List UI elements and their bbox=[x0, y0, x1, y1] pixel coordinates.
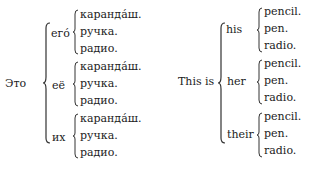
lead-text: This is bbox=[178, 75, 214, 88]
pronoun: их bbox=[52, 131, 66, 144]
word: каранда́ш. bbox=[80, 8, 141, 21]
word: радио. bbox=[80, 146, 118, 159]
word: radio. bbox=[264, 144, 296, 157]
pronoun: their bbox=[227, 128, 254, 141]
pronoun: his bbox=[226, 23, 242, 36]
small-brace-icon bbox=[73, 9, 79, 55]
word: pencil. bbox=[264, 110, 301, 123]
word: pencil. bbox=[264, 5, 301, 18]
word: radio. bbox=[264, 39, 296, 52]
word: radio. bbox=[264, 91, 296, 104]
pronoun: her bbox=[227, 75, 246, 88]
word: радио. bbox=[80, 94, 118, 107]
word: радио. bbox=[80, 42, 118, 55]
word: pencil. bbox=[264, 57, 301, 70]
small-brace-icon bbox=[257, 7, 263, 53]
pronoun: её bbox=[52, 79, 65, 92]
word: ручка. bbox=[80, 129, 118, 142]
word: ручка. bbox=[80, 25, 118, 38]
small-brace-icon bbox=[73, 113, 79, 159]
lead-text: Это bbox=[5, 77, 26, 90]
small-brace-icon bbox=[257, 112, 263, 158]
word: каранда́ш. bbox=[80, 112, 141, 125]
word: каранда́ш. bbox=[80, 60, 141, 73]
big-brace-icon bbox=[43, 22, 51, 144]
small-brace-icon bbox=[73, 61, 79, 107]
word: pen. bbox=[264, 22, 288, 35]
pronoun: его́ bbox=[51, 27, 70, 40]
big-brace-icon bbox=[218, 22, 226, 144]
word: pen. bbox=[264, 127, 288, 140]
small-brace-icon bbox=[257, 59, 263, 105]
word: ручка. bbox=[80, 77, 118, 90]
word: pen. bbox=[264, 74, 288, 87]
